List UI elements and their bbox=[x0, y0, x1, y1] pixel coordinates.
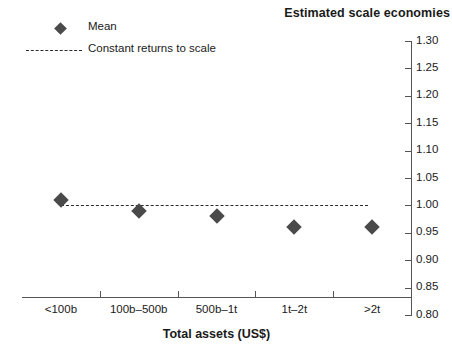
y-axis-tick-label: 1.00 bbox=[416, 199, 438, 211]
constant-returns-reference-line bbox=[61, 205, 368, 206]
y-axis-tick-label: 0.80 bbox=[416, 309, 438, 321]
y-axis-tick bbox=[405, 205, 411, 206]
y-axis-tick bbox=[405, 96, 411, 97]
y-axis-tick bbox=[405, 315, 411, 316]
y-axis-tick-label: 1.30 bbox=[416, 35, 438, 47]
y-axis-tick bbox=[405, 151, 411, 152]
chart-figure: Estimated scale economies Mean Constant … bbox=[0, 0, 452, 354]
legend-item-constant-returns: Constant returns to scale bbox=[26, 40, 256, 62]
y-axis-tick-label: 1.20 bbox=[416, 89, 438, 101]
y-axis-tick bbox=[405, 260, 411, 261]
x-axis-tick-label: >2t bbox=[364, 303, 380, 315]
data-point-marker bbox=[209, 209, 225, 225]
x-axis-tick-label: 500b–1t bbox=[196, 303, 238, 315]
x-axis-tick-label: 100b–500b bbox=[110, 303, 168, 315]
y-axis-tick-label: 0.95 bbox=[416, 226, 438, 238]
legend-label-mean: Mean bbox=[88, 20, 117, 32]
y-axis-tick bbox=[405, 233, 411, 234]
data-point-marker bbox=[287, 220, 303, 236]
legend-label-constant-returns: Constant returns to scale bbox=[88, 42, 216, 54]
x-axis-tick bbox=[333, 291, 334, 298]
chart-title: Estimated scale economies bbox=[284, 6, 450, 20]
y-axis-tick-label: 1.15 bbox=[416, 117, 438, 129]
y-axis-tick bbox=[405, 68, 411, 69]
y-axis-tick bbox=[405, 178, 411, 179]
y-axis-tick-label: 1.25 bbox=[416, 62, 438, 74]
x-axis-tick-label: 1t–2t bbox=[282, 303, 308, 315]
x-axis-tick bbox=[100, 291, 101, 298]
y-axis-tick bbox=[405, 288, 411, 289]
y-axis-line bbox=[411, 41, 412, 316]
data-point-marker bbox=[364, 220, 380, 236]
x-axis-tick bbox=[178, 291, 179, 298]
legend-item-mean: Mean bbox=[26, 18, 256, 40]
y-axis-tick bbox=[405, 41, 411, 42]
y-axis-tick-label: 1.05 bbox=[416, 172, 438, 184]
y-axis-tick-label: 0.90 bbox=[416, 254, 438, 266]
y-axis-tick bbox=[405, 123, 411, 124]
x-axis-tick bbox=[255, 291, 256, 298]
diamond-marker-icon bbox=[26, 18, 82, 40]
y-axis-tick-label: 0.85 bbox=[416, 281, 438, 293]
y-axis-tick-label: 1.10 bbox=[416, 144, 438, 156]
x-axis-tick-label: <100b bbox=[45, 303, 77, 315]
x-axis-line bbox=[22, 297, 412, 298]
chart-legend: Mean Constant returns to scale bbox=[26, 18, 256, 62]
x-axis-title: Total assets (US$) bbox=[22, 327, 411, 341]
dashed-line-icon bbox=[26, 40, 82, 62]
